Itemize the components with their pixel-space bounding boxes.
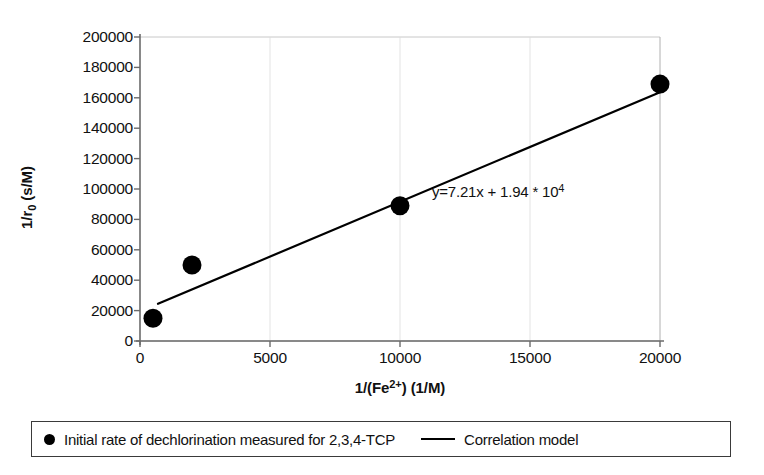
y-tick-label: 40000 bbox=[91, 272, 133, 288]
x-tick-label: 5000 bbox=[253, 350, 287, 366]
solid-line-marker-icon bbox=[421, 438, 455, 440]
y-tick-label: 100000 bbox=[82, 181, 133, 197]
y-axis-title-pre: 1/r bbox=[18, 211, 35, 229]
x-axis-title-post: ) (1/M) bbox=[402, 379, 445, 396]
x-axis-title: 1/(Fe2+) (1/M) bbox=[140, 378, 660, 396]
x-tick-label: 20000 bbox=[639, 350, 681, 366]
y-axis-title-post: (s/M) bbox=[18, 166, 35, 205]
legend-label: Initial rate of dechlorination measured … bbox=[64, 431, 395, 448]
legend-label: Correlation model bbox=[464, 431, 578, 448]
x-tick-label: 0 bbox=[136, 350, 144, 366]
y-tick-label: 80000 bbox=[91, 212, 133, 228]
y-axis-line bbox=[134, 34, 140, 345]
x-axis-line bbox=[136, 341, 664, 347]
legend-entry-data-series: Initial rate of dechlorination measured … bbox=[44, 431, 395, 448]
x-axis-title-superscript: 2+ bbox=[389, 378, 401, 390]
regression-equation-annotation: y=7.21x + 1.94 * 104 bbox=[432, 182, 564, 200]
equation-exponent: 4 bbox=[558, 182, 564, 194]
y-tick-label: 120000 bbox=[82, 151, 133, 167]
data-point bbox=[391, 196, 410, 215]
data-point bbox=[651, 75, 670, 94]
data-point-markers bbox=[144, 75, 670, 328]
data-point bbox=[183, 256, 202, 275]
x-tick-label: 15000 bbox=[509, 350, 551, 366]
x-tick-label: 10000 bbox=[379, 350, 421, 366]
correlation-model-line bbox=[158, 92, 660, 304]
equation-text: y=7.21x + 1.94 * 10 bbox=[432, 183, 558, 200]
y-tick-label: 20000 bbox=[91, 303, 133, 319]
chart-plot-area: 200000 180000 160000 140000 120000 10000… bbox=[0, 0, 764, 408]
y-tick-label: 200000 bbox=[82, 29, 133, 45]
y-tick-label: 60000 bbox=[91, 242, 133, 258]
y-tick-label: 180000 bbox=[82, 60, 133, 76]
x-axis-tick-labels: 0 5000 10000 15000 20000 bbox=[0, 350, 764, 374]
y-tick-label: 160000 bbox=[82, 90, 133, 106]
filled-circle-marker-icon bbox=[44, 434, 55, 445]
y-tick-label: 140000 bbox=[82, 120, 133, 136]
y-tick-label: 0 bbox=[125, 333, 133, 349]
chart-legend: Initial rate of dechlorination measured … bbox=[31, 421, 731, 457]
x-axis-title-pre: 1/(Fe bbox=[355, 379, 390, 396]
scatter-plot-figure: 200000 180000 160000 140000 120000 10000… bbox=[0, 0, 764, 475]
legend-entry-model-series: Correlation model bbox=[421, 431, 578, 448]
y-axis-title-subscript: 0 bbox=[26, 205, 38, 211]
y-axis-title: 1/r0 (s/M) bbox=[18, 128, 37, 268]
grid-lines bbox=[140, 37, 660, 341]
data-point bbox=[144, 309, 163, 328]
